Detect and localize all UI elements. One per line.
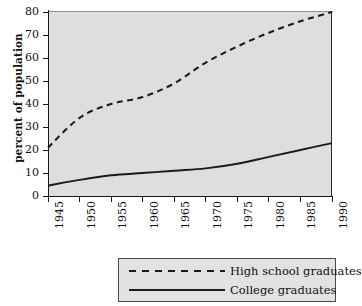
x-tick-label-1980: 1980 [274,201,287,235]
y-tick-label-40: 40 [0,98,39,109]
y-tick-70 [43,35,49,36]
x-tick-label-1950: 1950 [85,201,98,235]
y-tick-label-0: 0 [0,190,39,201]
x-tick-label-1945: 1945 [53,201,66,235]
x-tick-label-1975: 1975 [242,201,255,235]
x-tick-1990 [332,196,333,202]
y-tick-20 [43,150,49,151]
y-tick-label-30: 30 [0,121,39,132]
x-tick-label-1965: 1965 [179,201,192,235]
x-tick-label-1985: 1985 [305,201,318,235]
legend-label-high-school: High school graduates [230,264,362,278]
x-tick-1950 [79,196,80,202]
x-tick-1945 [48,196,49,202]
x-tick-label-1990: 1990 [337,201,350,235]
chart-legend: High school graduates College graduates [118,258,336,302]
plot-area [48,12,332,196]
y-tick-label-70: 70 [0,29,39,40]
y-tick-label-50: 50 [0,75,39,86]
y-tick-label-10: 10 [0,167,39,178]
x-tick-1970 [205,196,206,202]
legend-swatch-dashed-line [127,264,227,278]
legend-entry-high-school: High school graduates [119,261,335,281]
x-tick-1980 [268,196,269,202]
y-tick-10 [43,173,49,174]
y-tick-label-60: 60 [0,52,39,63]
y-tick-label-20: 20 [0,144,39,155]
y-tick-label-80: 80 [0,6,39,17]
y-tick-40 [43,104,49,105]
legend-entry-college: College graduates [119,280,335,300]
legend-label-college: College graduates [230,283,336,297]
y-tick-80 [43,12,49,13]
x-tick-label-1970: 1970 [211,201,224,235]
legend-swatch-solid-line [127,283,227,297]
y-tick-50 [43,81,49,82]
x-axis-line [47,196,333,197]
y-tick-60 [43,58,49,59]
x-tick-label-1960: 1960 [148,201,161,235]
x-tick-1975 [237,196,238,202]
y-tick-30 [43,127,49,128]
x-tick-label-1955: 1955 [116,201,129,235]
plot-top-edge [48,11,333,12]
x-tick-1960 [142,196,143,202]
x-tick-1985 [300,196,301,202]
x-tick-1965 [174,196,175,202]
x-tick-1955 [111,196,112,202]
